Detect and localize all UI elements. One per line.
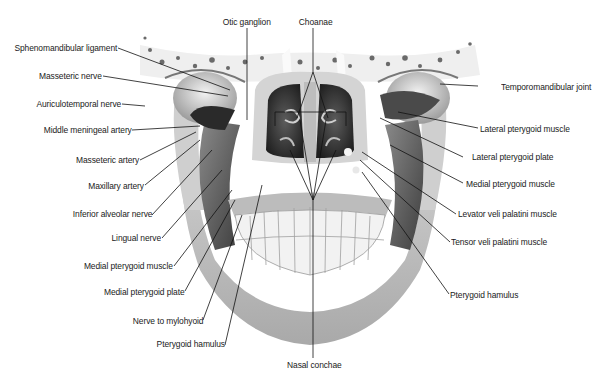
label-choanae: Choanae [299, 16, 333, 27]
label-pterygoid-hamulus-left: Pterygoid hamulus [157, 338, 225, 349]
label-temporomandibular-joint: Temporomandibular joint [501, 81, 591, 92]
label-auriculotemporal-nerve: Auriculotemporal nerve [36, 98, 121, 109]
label-nerve-to-mylohyoid: Nerve to mylohyoid [132, 315, 203, 326]
label-pterygoid-hamulus-right: Pterygoid hamulus [450, 289, 518, 300]
teeth [228, 193, 392, 276]
label-medial-pterygoid-muscle-left: Medial pterygoid muscle [84, 260, 173, 271]
label-middle-meningeal-artery: Middle meningeal artery [44, 124, 132, 135]
label-levator-veli-palatini-muscle: Levator veli palatini muscle [458, 208, 557, 219]
label-medial-pterygoid-muscle-right: Medial pterygoid muscle [466, 178, 555, 189]
label-lateral-pterygoid-muscle: Lateral pterygoid muscle [480, 123, 570, 134]
label-masseteric-artery: Masseteric artery [76, 154, 139, 165]
label-tensor-veli-palatini-muscle: Tensor veli palatini muscle [451, 236, 547, 247]
label-lateral-pterygoid-plate: Lateral pterygoid plate [472, 151, 553, 162]
label-sphenomandibular-ligament: Sphenomandibular ligament [14, 42, 117, 53]
label-maxillary-artery: Maxillary artery [88, 180, 144, 191]
label-nasal-conchae: Nasal conchae [287, 359, 342, 370]
label-otic-ganglion: Otic ganglion [223, 16, 271, 27]
label-inferior-alveolar-nerve: Inferior alveolar nerve [72, 208, 152, 219]
label-lingual-nerve: Lingual nerve [112, 232, 162, 243]
choanae-region [252, 72, 368, 174]
label-masseteric-nerve: Masseteric nerve [39, 70, 102, 81]
label-medial-pterygoid-plate: Medial pterygoid plate [104, 286, 185, 297]
anatomy-diagram: Sphenomandibular ligament Masseteric ner… [0, 0, 611, 378]
